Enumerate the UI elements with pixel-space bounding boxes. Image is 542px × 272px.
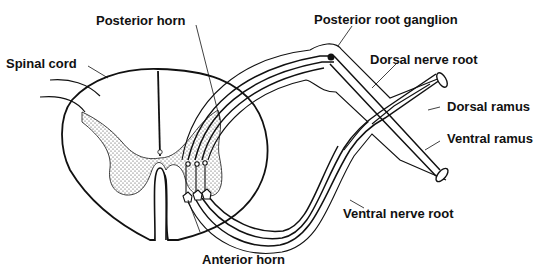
label-spinal-cord: Spinal cord	[6, 57, 77, 70]
nerve-sheath	[182, 44, 446, 253]
label-ventral-ramus: Ventral ramus	[447, 132, 533, 145]
label-posterior-horn: Posterior horn	[96, 14, 186, 27]
ventral-ramus-end	[434, 166, 450, 183]
label-posterior-root-ganglion: Posterior root ganglion	[314, 13, 458, 26]
anterior-median-fissure	[154, 168, 166, 240]
ganglion-cell	[328, 54, 335, 61]
label-dorsal-ramus: Dorsal ramus	[447, 100, 530, 113]
label-ventral-nerve-root: Ventral nerve root	[343, 207, 454, 220]
dorsal-ramus-end	[435, 71, 450, 89]
label-anterior-horn: Anterior horn	[202, 253, 285, 266]
label-dorsal-nerve-root: Dorsal nerve root	[370, 53, 478, 66]
grey-matter	[82, 110, 222, 196]
central-canal	[158, 150, 162, 154]
